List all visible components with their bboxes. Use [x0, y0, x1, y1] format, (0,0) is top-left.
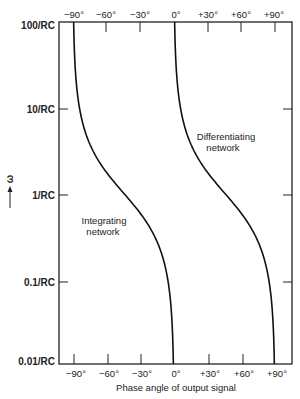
bottom-tick-label: −30°	[132, 368, 152, 379]
annotation-line: network	[206, 142, 240, 153]
y-tick-label: 0.1/RC	[24, 277, 55, 288]
y-axis-label: ω	[4, 174, 15, 208]
right-y-ticks	[283, 109, 292, 282]
differentiating-network-curve	[175, 22, 275, 364]
top-tick-label: 0°	[171, 9, 180, 20]
top-tick-label: +90°	[264, 9, 284, 20]
top-ticks	[106, 22, 275, 32]
top-tick-label: +30°	[198, 9, 218, 20]
bottom-tick-label: +90°	[267, 368, 287, 379]
bottom-tick-label: 0°	[171, 368, 180, 379]
annotation-line: Differentiating	[197, 131, 255, 142]
y-tick-label: 10/RC	[27, 104, 55, 115]
top-tick-labels: −90° −60° −30° 0° +30° +60° +90°	[64, 9, 284, 20]
x-axis-label: Phase angle of output signal	[116, 382, 236, 393]
top-tick-label: −30°	[130, 9, 150, 20]
bottom-tick-label: +30°	[200, 368, 220, 379]
omega-label: ω	[4, 174, 15, 183]
bottom-tick-label: −60°	[99, 368, 119, 379]
bottom-tick-label: −90°	[66, 368, 86, 379]
annotation-line: network	[86, 226, 120, 237]
annotation-line: Integrating	[82, 215, 127, 226]
differentiating-annotation: Differentiating network	[197, 131, 255, 153]
integrating-annotation: Integrating network	[82, 215, 127, 237]
bottom-ticks	[74, 354, 243, 364]
y-tick-label: 1/RC	[32, 190, 55, 201]
left-y-ticks	[59, 109, 68, 282]
bottom-tick-labels: −90° −60° −30° 0° +30° +60° +90°	[66, 368, 287, 379]
phase-chart: −90° −60° −30° 0° +30° +60° +90° −90° −6…	[0, 0, 300, 399]
bottom-tick-label: +60°	[234, 368, 254, 379]
integrating-network-curve	[74, 22, 174, 364]
y-tick-labels: 100/RC 10/RC 1/RC 0.1/RC 0.01/RC	[18, 20, 55, 367]
top-tick-label: +60°	[231, 9, 251, 20]
top-tick-label: −90°	[64, 9, 84, 20]
arrowhead-icon	[8, 186, 13, 192]
top-tick-label: −60°	[96, 9, 116, 20]
y-tick-label: 100/RC	[21, 20, 55, 31]
y-tick-label: 0.01/RC	[18, 356, 55, 367]
plot-frame	[59, 22, 292, 364]
